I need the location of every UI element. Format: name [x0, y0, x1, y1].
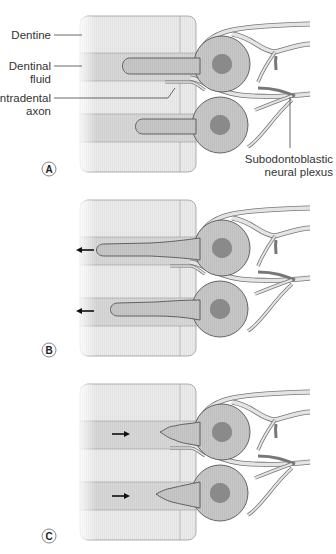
label-dentinal-fluid-line1: Dentinal	[9, 60, 51, 72]
label-intradental-axon-line2: axon	[26, 105, 51, 117]
label-intradental-axon-line1: Intradental	[0, 92, 51, 104]
label-dentine: Dentine	[11, 29, 51, 41]
odontoblast-diagram: Dentine Dentinal fluid Intradental axon …	[0, 0, 336, 554]
label-dentinal-fluid-line2: fluid	[30, 73, 51, 85]
panel-label-b: B	[45, 345, 52, 356]
label-plexus-line2: neural plexus	[265, 166, 334, 178]
panel-b: B	[42, 200, 310, 357]
label-plexus-line1: Subodontoblastic	[245, 153, 333, 165]
panel-label-c: C	[45, 531, 52, 542]
panel-label-a: A	[45, 164, 52, 175]
panel-a: Dentine Dentinal fluid Intradental axon …	[0, 16, 333, 178]
panel-c: C	[42, 384, 310, 543]
